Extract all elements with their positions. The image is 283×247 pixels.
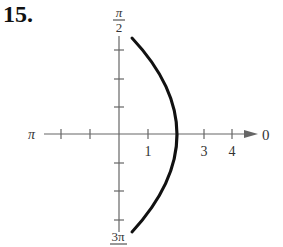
tick-label-3: 3 (201, 144, 208, 159)
polar-axis (44, 129, 258, 139)
label-top-numerator: π (116, 5, 123, 20)
arrow-right-icon (244, 130, 258, 138)
label-angle-zero: 0 (262, 127, 270, 143)
label-bottom-numerator: 3π (111, 229, 125, 244)
polar-graph: π 0 π 2 3π 1 3 4 (0, 0, 283, 247)
label-angle-pi: π (28, 127, 36, 142)
tick-label-1: 1 (145, 144, 152, 159)
tick-label-4: 4 (229, 144, 236, 159)
polar-curve (132, 38, 177, 232)
label-top-denominator: 2 (116, 20, 123, 35)
